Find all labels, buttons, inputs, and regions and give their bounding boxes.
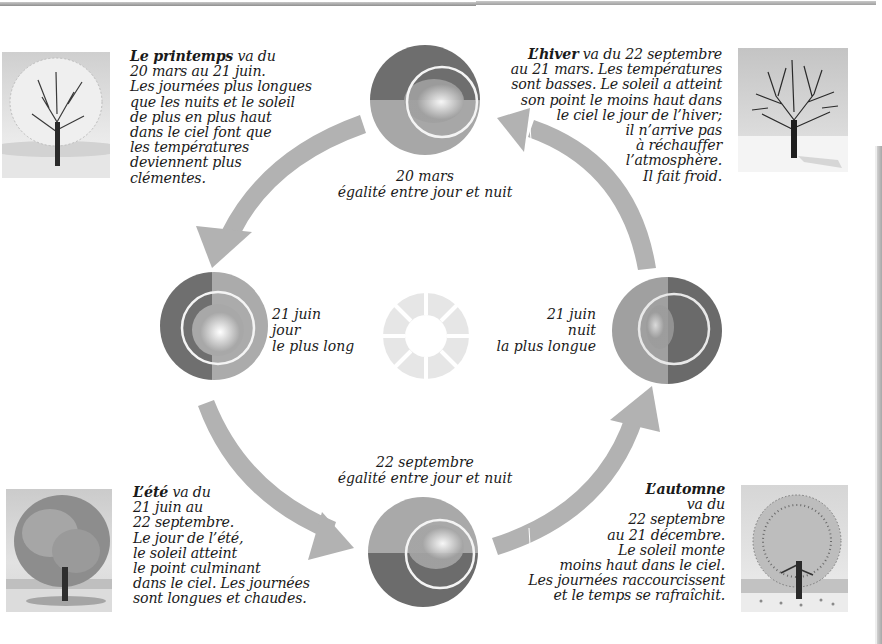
earth-globe-june-night xyxy=(612,277,722,384)
caption-march-equinox: 20 mars égalité entre jour et nuit xyxy=(330,168,520,200)
caption-june-night: 21 juin nuit la plus longue xyxy=(496,306,596,354)
caption-september-equinox: 22 septembre égalité entre jour et nuit xyxy=(325,454,525,486)
earth-globe-june-day xyxy=(160,272,268,380)
spring-description: Le printemps va du 20 mars au 21 juin. L… xyxy=(130,49,312,186)
autumn-tree-illustration xyxy=(741,485,848,612)
spring-tree-illustration xyxy=(2,52,110,178)
season-name-spring: Le printemps xyxy=(130,48,233,64)
season-name-autumn: L’automne xyxy=(528,482,725,497)
season-name-winter: L’hiver xyxy=(528,46,579,62)
summer-description: L’été va du 21 juin au 22 septembre. Le … xyxy=(133,485,310,607)
summer-tree-illustration xyxy=(6,489,112,612)
winter-description: L’hiver va du 22 septembre au 21 mars. L… xyxy=(511,47,722,184)
earth-globe-september xyxy=(368,497,478,607)
autumn-description: L’automne va du 22 septembre au 21 décem… xyxy=(528,482,725,604)
caption-june-day: 21 juin jour le plus long xyxy=(272,306,354,354)
earth-globe-march xyxy=(370,45,480,155)
sun-icon xyxy=(381,292,471,380)
winter-tree-illustration xyxy=(738,48,848,172)
season-name-summer: L’été xyxy=(133,484,168,500)
